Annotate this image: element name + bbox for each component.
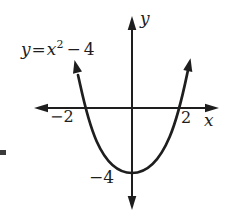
page-edge-artifact (0, 150, 6, 155)
tick-label-y-neg4: −4 (89, 169, 114, 186)
x-axis-left-arrowhead-icon (34, 104, 48, 113)
equation-variable: x (47, 39, 57, 59)
tick-label-x-neg2: −2 (50, 109, 74, 125)
equation-operator: − (66, 39, 80, 59)
parabola-right-arrowhead-icon (183, 58, 192, 72)
y-axis-top-arrowhead-icon (128, 16, 137, 30)
equation-label: y=x2−4 (21, 41, 95, 58)
y-axis-bottom-arrowhead-icon (128, 196, 137, 210)
y-axis-label: y (140, 10, 150, 27)
x-axis-label: x (204, 112, 214, 129)
tick-label-x-pos2: 2 (181, 110, 191, 126)
parabola-graph-figure: y=x2−4 y x −2 2 −4 (0, 0, 240, 219)
equation-constant: 4 (84, 39, 95, 59)
parabola-left-arrowhead-icon (73, 60, 82, 74)
equation-equals: = (32, 39, 46, 59)
equation-exponent: 2 (56, 38, 63, 51)
equation-lhs: y (21, 39, 31, 59)
